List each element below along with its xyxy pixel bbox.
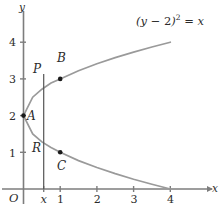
y-tick-label-3: 3 [9,74,16,85]
point-C [58,150,63,155]
curve-upper-branch [24,42,171,115]
plot-canvas [0,0,222,211]
equation-equals: = [181,14,198,28]
y-tick-label-4: 4 [9,37,16,48]
y-axis-label: y [19,2,25,13]
point-label-P: P [33,63,41,75]
x-tick-label-1: 1 [57,194,64,205]
point-label-R: R [32,142,41,154]
point-B [58,77,63,82]
curve-lower-branch [24,116,171,189]
equation-var-x: x [198,14,205,28]
x-tick-label-x: x [41,194,48,206]
equation-annotation: (y − 2)2 = x [136,14,204,27]
origin-label: O [9,193,18,205]
point-label-B: B [57,52,66,64]
x-tick-label-3: 3 [130,194,137,205]
x-axis-label: x [212,183,218,194]
point-label-C: C [57,160,66,172]
y-tick-label-1: 1 [9,148,16,159]
point-label-A: A [27,110,36,122]
equation-minus: − [147,14,164,28]
x-tick-label-4: 4 [167,194,174,205]
parabola-figure: (y − 2)2 = x y x O 1 2 3 4 x 1 2 3 4 A P… [0,0,222,211]
x-tick-label-2: 2 [94,194,101,205]
point-A [21,113,26,118]
y-tick-label-2: 2 [9,111,16,122]
